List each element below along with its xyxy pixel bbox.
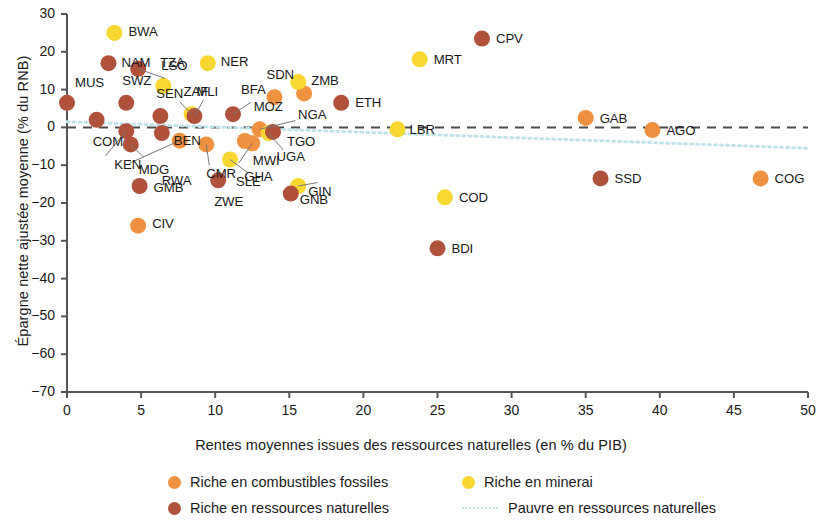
point-label-ken: KEN [114,157,141,172]
point-label-swz: SWZ [122,73,151,88]
data-point-eth[interactable] [333,95,349,111]
y-tick-label: 10 [11,81,55,97]
legend-item-natural[interactable]: Riche en ressources naturelles [168,500,389,516]
point-label-lbr: LBR [409,122,434,137]
x-tick-label: 45 [714,402,754,418]
data-point-swz[interactable] [118,95,134,111]
data-point-bdi[interactable] [430,240,446,256]
point-label-eth: ETH [355,95,381,110]
x-axis-title: Rentes moyennes issues des ressources na… [0,437,822,453]
x-tick-label: 5 [121,402,161,418]
x-tick-label: 50 [788,402,822,418]
point-label-zmb: ZMB [311,73,339,88]
point-label-civ: CIV [152,216,174,231]
legend-dot-icon [168,476,181,489]
point-label-mus: MUS [75,75,104,90]
data-point-gmb[interactable] [132,178,148,194]
data-point-cog[interactable] [753,170,769,186]
data-point-cod[interactable] [437,189,453,205]
point-label-cod: COD [459,190,488,205]
point-label-com: COM [93,134,123,149]
x-tick-label: 0 [47,402,87,418]
point-label-bfa: BFA [241,82,266,97]
legend-item-dashline[interactable]: Pauvre en ressources naturelles [462,500,716,516]
data-point-com[interactable] [89,112,105,128]
legend-label: Riche en minerai [484,474,593,490]
y-tick-label: −30 [11,232,55,248]
y-tick-label: −50 [11,307,55,323]
point-label-sen: SEN [156,86,183,101]
y-tick-label: 20 [11,43,55,59]
data-point-gnb[interactable] [283,186,299,202]
data-point-mus[interactable] [59,95,75,111]
x-tick-label: 35 [566,402,606,418]
point-label-cmr: CMR [206,166,236,181]
data-point-mrt[interactable] [412,51,428,67]
point-label-ssd: SSD [615,171,642,186]
point-label-uga: UGA [277,149,305,164]
point-label-ben: BEN [174,133,201,148]
y-tick-label: 0 [11,118,55,134]
point-label-cpv: CPV [496,31,523,46]
point-label-moz: MOZ [254,99,283,114]
point-label-sdn: SDN [266,67,294,82]
chart-legend: Riche en combustibles fossilesRiche en m… [168,470,768,522]
point-label-mrt: MRT [434,52,462,67]
point-label-tza: TZA [160,55,185,70]
data-point-ago[interactable] [644,122,660,138]
x-tick-label: 10 [195,402,235,418]
point-label-sle: SLE [236,174,261,189]
data-point-lbr[interactable] [389,121,405,137]
point-label-cog: COG [775,171,805,186]
point-label-nam: NAM [121,55,150,70]
point-label-bwa: BWA [128,24,157,39]
point-label-ner: NER [221,54,249,69]
data-point-gab[interactable] [578,110,594,126]
y-tick-label: −70 [11,383,55,399]
point-label-zwe: ZWE [214,194,243,209]
data-point-cpv[interactable] [474,31,490,47]
y-tick-label: −60 [11,345,55,361]
point-label-gab: GAB [600,111,628,126]
legend-item-mineral[interactable]: Riche en minerai [462,474,593,490]
legend-dot-icon [168,502,181,515]
data-point-ben[interactable] [154,125,170,141]
y-tick-label: 30 [11,5,55,21]
data-point-nam[interactable] [100,55,116,71]
data-point-ssd[interactable] [593,170,609,186]
point-label-nga: NGA [298,107,326,122]
data-point-sen[interactable] [152,108,168,124]
data-point-civ[interactable] [130,218,146,234]
point-label-mdg: MDG [139,162,169,177]
point-label-gmb: GMB [154,180,184,195]
x-tick-label: 15 [269,402,309,418]
x-tick-label: 30 [492,402,532,418]
x-tick-label: 20 [343,402,383,418]
y-tick-label: −20 [11,194,55,210]
point-label-gnb: GNB [300,192,328,207]
legend-label: Riche en combustibles fossiles [190,474,388,490]
data-point-ner[interactable] [200,55,216,71]
scatter-chart: Rentes moyennes issues des ressources na… [0,0,822,524]
data-point-bwa[interactable] [106,25,122,41]
x-tick-label: 40 [640,402,680,418]
legend-label: Pauvre en ressources naturelles [508,500,716,516]
y-tick-label: −40 [11,270,55,286]
x-tick-label: 25 [418,402,458,418]
point-label-ago: AGO [666,123,695,138]
legend-dashline-icon [462,507,498,509]
y-tick-label: −10 [11,156,55,172]
legend-label: Riche en ressources naturelles [190,500,389,516]
point-label-mli: MLI [196,84,218,99]
point-label-bdi: BDI [452,241,474,256]
point-label-tgo: TGO [287,134,315,149]
legend-dot-icon [462,476,475,489]
legend-item-fossil[interactable]: Riche en combustibles fossiles [168,474,388,490]
